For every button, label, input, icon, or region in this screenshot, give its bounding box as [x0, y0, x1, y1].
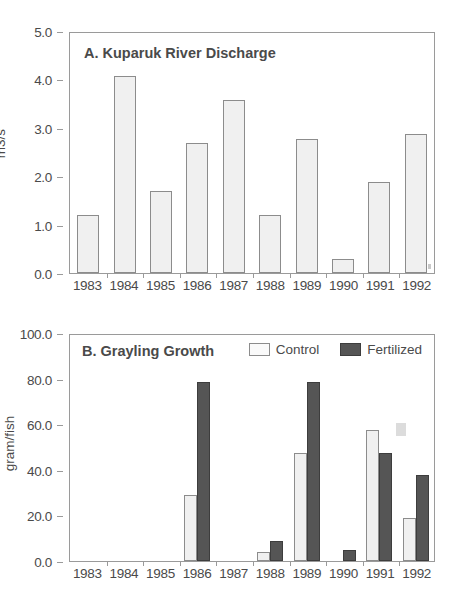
- y-tick-label: 1.0: [34, 218, 52, 233]
- y-tick-label: 3.0: [34, 121, 52, 136]
- x-tick-label: 1986: [179, 566, 216, 581]
- x-tick-label: 1988: [252, 566, 289, 581]
- bar-slot: [252, 33, 288, 273]
- x-axis-labels-b: 1983198419851986198719881989199019911992: [69, 566, 435, 581]
- y-tick-mark: [57, 425, 63, 426]
- x-tick-label: 1990: [325, 566, 362, 581]
- bar-slot: [252, 335, 288, 561]
- bar: [403, 518, 416, 561]
- y-tick-label: 100.0: [20, 327, 52, 342]
- y-tick-label: 40.0: [27, 463, 52, 478]
- x-tick-label: 1983: [69, 566, 106, 581]
- x-tick-label: 1987: [215, 278, 252, 293]
- y-tick-mark: [57, 226, 63, 227]
- bar: [77, 215, 99, 273]
- x-tick-label: 1984: [106, 278, 143, 293]
- x-tick-label: 1985: [142, 278, 179, 293]
- y-tick-mark: [57, 80, 63, 81]
- bar-slot: [288, 33, 324, 273]
- bar-slot: [325, 33, 361, 273]
- figure-root: 0.01.02.03.04.05.0 m3/s A. Kuparuk River…: [0, 0, 456, 592]
- y-tick-label: 5.0: [34, 25, 52, 40]
- artifact-speck: [428, 264, 431, 269]
- bar: [186, 143, 208, 273]
- bar-slot: [216, 335, 252, 561]
- x-tick-label: 1983: [69, 278, 106, 293]
- x-tick-label: 1991: [362, 566, 399, 581]
- x-tick-label: 1992: [398, 566, 435, 581]
- bar: [294, 453, 307, 561]
- bar: [197, 382, 210, 561]
- bar: [296, 139, 318, 273]
- y-tick-label: 0.0: [34, 555, 52, 570]
- bar: [270, 541, 283, 561]
- x-tick-label: 1986: [179, 278, 216, 293]
- y-tick-mark: [57, 471, 63, 472]
- bar: [259, 215, 281, 273]
- plot-area-a: A. Kuparuk River Discharge: [69, 32, 435, 274]
- bar-slot: [70, 335, 106, 561]
- bar: [405, 134, 427, 273]
- y-tick-label: 20.0: [27, 509, 52, 524]
- x-tick-label: 1991: [362, 278, 399, 293]
- bar: [332, 259, 354, 273]
- y-tick-label: 80.0: [27, 372, 52, 387]
- x-tick-label: 1984: [106, 566, 143, 581]
- y-tick-mark: [57, 334, 63, 335]
- y-tick-label: 4.0: [34, 73, 52, 88]
- y-tick-mark: [57, 177, 63, 178]
- bar: [368, 182, 390, 273]
- bar-slot: [398, 335, 434, 561]
- x-tick-label: 1988: [252, 278, 289, 293]
- bar-slot: [70, 33, 106, 273]
- bar: [307, 382, 320, 561]
- y-tick-mark: [57, 380, 63, 381]
- bar-slot: [361, 335, 397, 561]
- x-tick-label: 1987: [215, 566, 252, 581]
- chart-panel-a: 0.01.02.03.04.05.0 m3/s A. Kuparuk River…: [0, 18, 456, 300]
- x-axis-labels-a: 1983198419851986198719881989199019911992: [69, 278, 435, 293]
- x-tick-label: 1992: [398, 278, 435, 293]
- y-tick-label: 0.0: [34, 267, 52, 282]
- bar-slot: [325, 335, 361, 561]
- plot-area-b: B. Grayling Growth Control Fertilized: [69, 334, 435, 562]
- x-tick-label: 1989: [289, 566, 326, 581]
- bar-group-a: [70, 33, 434, 273]
- bar: [343, 550, 356, 561]
- bar-slot: [216, 33, 252, 273]
- bar: [366, 430, 379, 561]
- bar: [379, 453, 392, 561]
- bar-slot: [143, 33, 179, 273]
- bar-group-b: [70, 335, 434, 561]
- bar: [184, 495, 197, 561]
- bar: [150, 191, 172, 273]
- y-tick-mark: [57, 129, 63, 130]
- bar-slot: [143, 335, 179, 561]
- bar: [114, 76, 136, 273]
- y-axis-title-a: m3/s: [0, 129, 8, 158]
- y-tick-label: 2.0: [34, 170, 52, 185]
- bar-slot: [288, 335, 324, 561]
- x-tick-label: 1989: [289, 278, 326, 293]
- y-tick-mark: [57, 32, 63, 33]
- bar: [223, 100, 245, 273]
- y-tick-mark: [57, 562, 63, 563]
- bar-slot: [361, 33, 397, 273]
- bar-slot: [179, 33, 215, 273]
- y-tick-label: 60.0: [27, 418, 52, 433]
- artifact-speck: [396, 423, 406, 436]
- bar-slot: [106, 335, 142, 561]
- x-tick-label: 1990: [325, 278, 362, 293]
- bar-slot: [398, 33, 434, 273]
- x-tick-label: 1985: [142, 566, 179, 581]
- y-axis-title-b: gram/fish: [2, 416, 17, 472]
- bar: [257, 552, 270, 561]
- bar-slot: [106, 33, 142, 273]
- chart-panel-b: 0.020.040.060.080.0100.0 gram/fish B. Gr…: [0, 318, 456, 592]
- bar: [416, 475, 429, 561]
- y-tick-mark: [57, 516, 63, 517]
- y-tick-mark: [57, 274, 63, 275]
- bar-slot: [179, 335, 215, 561]
